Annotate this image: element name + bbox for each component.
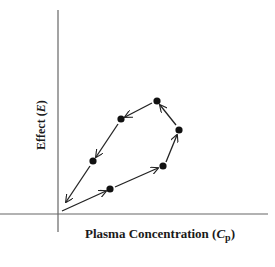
point xyxy=(117,115,124,122)
arrow-segment xyxy=(66,166,90,202)
x-axis-label: Plasma Concentration (Cp) xyxy=(85,226,235,243)
arrow-segment xyxy=(115,168,158,187)
point xyxy=(153,97,160,104)
y-axis-label: Effect (E) xyxy=(34,100,48,150)
arrow-segment xyxy=(125,103,152,117)
hysteresis-diagram: Plasma Concentration (Cp) Effect (E) xyxy=(0,0,275,267)
arrow-segment xyxy=(166,135,177,162)
point xyxy=(89,157,96,164)
point xyxy=(175,126,182,133)
arrow-segment xyxy=(160,105,176,125)
point xyxy=(106,185,113,192)
arrow-segment xyxy=(96,124,118,157)
arrow-segment xyxy=(62,191,106,211)
point xyxy=(159,162,166,169)
